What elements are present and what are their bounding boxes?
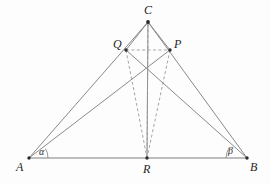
point-label-R: R <box>143 163 150 175</box>
vertex-dot-B <box>245 156 248 159</box>
segment-C-P <box>148 22 170 50</box>
vertex-dot-A <box>27 156 30 159</box>
segment-A-P <box>29 50 170 158</box>
segment-B-C <box>148 22 247 158</box>
segment-C-Q <box>126 22 148 50</box>
angle-label-beta: β <box>228 146 233 156</box>
vertex-dot-Q <box>124 48 127 51</box>
vertex-dot-C <box>146 20 150 24</box>
point-label-A: A <box>16 161 23 173</box>
point-label-Q: Q <box>113 38 122 50</box>
point-label-C: C <box>144 4 152 16</box>
geometry-figure: C Q P A B R α β <box>0 0 271 185</box>
segment-P-R-dashed <box>147 50 170 158</box>
vertex-dot-P <box>168 48 171 51</box>
vertex-dot-R <box>145 156 148 159</box>
geometry-canvas <box>0 0 271 185</box>
segment-A-C <box>29 22 148 158</box>
point-label-P: P <box>174 38 181 50</box>
point-label-B: B <box>250 161 257 173</box>
angle-arc-alpha <box>46 149 49 158</box>
angle-label-alpha: α <box>39 147 44 157</box>
